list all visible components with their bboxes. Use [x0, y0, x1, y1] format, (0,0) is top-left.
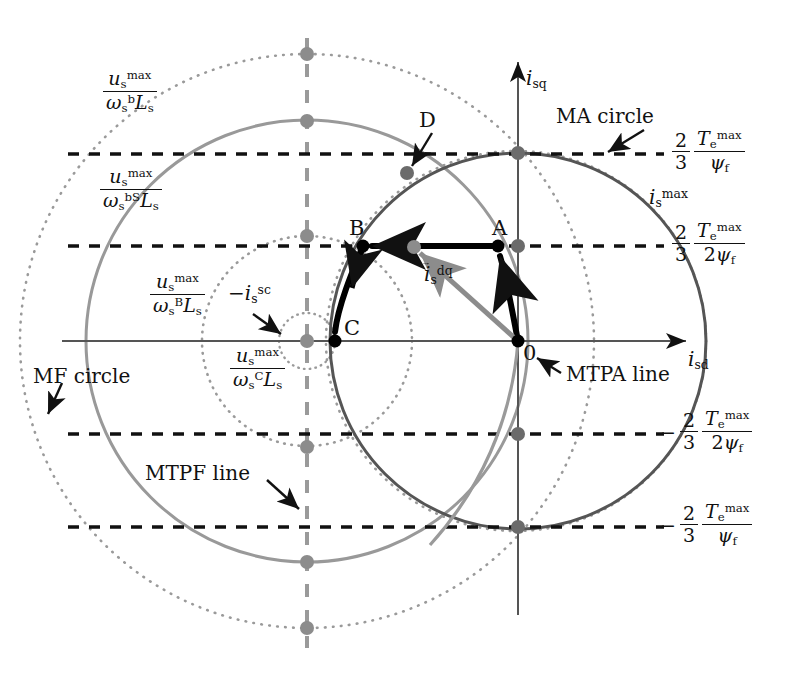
isd-axis-label-sub: sd: [694, 357, 708, 372]
isq-axis-label-sub: sq: [532, 76, 546, 91]
vector-accent-icon: [423, 260, 429, 267]
torque-ratio-3: Temax 2ψf: [702, 408, 752, 455]
point-dot-D: [400, 166, 414, 180]
voltage-limit-label-B: usmax ωsBLs: [150, 271, 205, 318]
point-label-A: A: [492, 216, 507, 240]
marker-dot-isq-upper: [511, 239, 525, 253]
is-max-sup: max: [662, 186, 688, 201]
leader-mtpf-line: [267, 480, 299, 509]
torque-ratio-2: Temax 2ψf: [694, 220, 744, 267]
marker-dot-center-bot-inner: [300, 440, 314, 454]
marker-dot-isq-bottom: [511, 520, 525, 534]
point-dot-vector-tip: [407, 240, 421, 254]
point-label-D: D: [419, 108, 436, 132]
voltage-limit-C-den: ωsCLs: [230, 369, 285, 392]
point-label-B: B: [349, 216, 364, 240]
mtpf-line-label: MTPF line: [145, 461, 250, 485]
is-sc-sup: sc: [258, 282, 271, 297]
leader-mtpa-line: [537, 358, 561, 373]
isq-axis-label: isq: [526, 66, 547, 91]
marker-dot-center-bot-mf: [300, 555, 314, 569]
current-vector-sup: dq: [437, 263, 453, 278]
voltage-limit-C-num: usmax: [230, 345, 285, 369]
torque-neg-sign-1: −: [660, 421, 676, 443]
torque-ratio-1: Temax ψf: [694, 128, 744, 175]
marker-dot-isq-lower: [511, 427, 525, 441]
voltage-limit-b-den: ωsbLs: [103, 92, 157, 115]
point-dot-C: [329, 335, 342, 348]
torque-coef-2: 23: [672, 222, 690, 266]
torque-limit-label-neg-half: − 23 Temax 2ψf: [660, 408, 752, 455]
marker-dot-center-top-inner: [300, 229, 314, 243]
torque-coef-3: 23: [680, 410, 698, 454]
torque-limit-label-pos-full: 23 Temax ψf: [672, 128, 745, 175]
voltage-limit-label-b: usmax ωsbLs: [103, 68, 157, 115]
minus-sign: −: [228, 281, 245, 305]
ma-circle-label: MA circle: [556, 104, 654, 128]
mf-circle-label: MF circle: [33, 364, 130, 388]
voltage-limit-label-C: usmax ωsCLs: [230, 345, 285, 392]
voltage-limit-label-bS: usmax ωsbSLs: [100, 166, 162, 213]
voltage-limit-fraction-C: usmax ωsCLs: [230, 345, 285, 392]
point-dot-A: [492, 240, 505, 253]
figure-canvas: isq isd 0 A B C D MA circle MF circle MT…: [0, 0, 791, 677]
marker-dot-center: [300, 334, 314, 348]
voltage-limit-fraction-b: usmax ωsbLs: [103, 68, 157, 115]
leader-ma-circle: [608, 130, 644, 152]
voltage-limit-fraction-bS: usmax ωsbSLs: [100, 166, 162, 213]
marker-dot-center-top-outer: [300, 47, 314, 61]
voltage-limit-b-num: usmax: [103, 68, 157, 92]
is-max-label: ismax: [649, 185, 688, 210]
torque-limit-label-pos-half: 23 Temax 2ψf: [672, 220, 745, 267]
marker-dot-isq-top: [511, 146, 525, 160]
origin-label: 0: [523, 341, 536, 365]
leader-i-s-sc: [253, 314, 281, 334]
torque-neg-sign-2: −: [660, 514, 676, 536]
torque-coef-4: 23: [680, 503, 698, 547]
point-dot-B: [357, 240, 370, 253]
current-vector-label: isdq: [424, 262, 453, 287]
torque-limit-label-neg-full: − 23 Temax ψf: [660, 501, 752, 548]
marker-dot-center-bot-outer: [300, 621, 314, 635]
voltage-limit-B-num: usmax: [150, 271, 205, 295]
isd-axis-label: isd: [688, 347, 709, 372]
voltage-limit-bS-num: usmax: [100, 166, 162, 190]
marker-dot-center-top-mf: [300, 114, 314, 128]
torque-ratio-4: Temax ψf: [702, 501, 752, 548]
point-label-C: C: [344, 316, 360, 340]
vector-arrow-accent: i: [424, 262, 430, 286]
torque-coef-1: 23: [672, 130, 690, 174]
voltage-limit-bS-den: ωsbSLs: [100, 190, 162, 213]
voltage-limit-fraction-B: usmax ωsBLs: [150, 271, 205, 318]
voltage-limit-B-den: ωsBLs: [150, 295, 205, 318]
mtpa-line-label: MTPA line: [566, 362, 670, 386]
minus-is-sc-label: −issc: [228, 281, 271, 306]
